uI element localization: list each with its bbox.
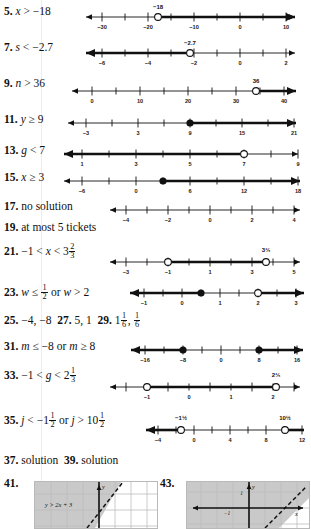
svg-text:0: 0 — [219, 357, 222, 363]
numberline-5: −18 −30 −20 −10 0 10 — [78, 3, 303, 33]
svg-text:9: 9 — [188, 130, 191, 136]
numberline-13: 1 3 5 7 9 — [58, 142, 306, 170]
item-31-label: 31. m ≤ −8 or m ≥ 8 — [4, 341, 95, 353]
svg-text:1: 1 — [218, 300, 221, 306]
svg-text:5: 5 — [188, 161, 191, 167]
svg-text:−1½: −1½ — [175, 415, 187, 421]
svg-text:3: 3 — [294, 300, 297, 306]
svg-text:4: 4 — [292, 217, 296, 223]
svg-text:1: 1 — [80, 161, 83, 167]
numberline-15: −6 0 6 12 18 — [58, 169, 306, 197]
svg-text:12: 12 — [299, 437, 305, 443]
numberline-31: −16 −8 0 8 16 — [125, 338, 307, 366]
svg-text:2⅓: 2⅓ — [272, 372, 280, 378]
svg-text:−1: −1 — [141, 300, 147, 306]
svg-text:0: 0 — [192, 437, 195, 443]
svg-text:2: 2 — [256, 300, 259, 306]
svg-text:−6: −6 — [99, 60, 105, 66]
svg-text:12: 12 — [241, 188, 247, 194]
numberline-7: −2.7 −6 −4 −2 0 2 — [78, 39, 303, 69]
svg-text:−1: −1 — [165, 269, 171, 275]
svg-text:8: 8 — [264, 437, 267, 443]
svg-text:21: 21 — [291, 130, 297, 136]
svg-text:−2.7: −2.7 — [184, 40, 197, 46]
svg-text:−3: −3 — [123, 269, 129, 275]
item-5-label: 5. x > −18 — [4, 6, 51, 18]
svg-text:10½: 10½ — [279, 415, 291, 421]
svg-text:7: 7 — [242, 161, 245, 167]
svg-text:1: 1 — [229, 394, 232, 400]
svg-text:36: 36 — [253, 78, 260, 84]
svg-text:y > 2x + 3: y > 2x + 3 — [44, 501, 72, 508]
svg-text:−1: −1 — [144, 394, 150, 400]
svg-text:5: 5 — [292, 269, 295, 275]
graph-41: y y > 2x + 3 — [34, 481, 158, 529]
item-21-label: 21. −1 < x < 323 — [4, 243, 76, 261]
svg-text:−20: −20 — [143, 24, 153, 30]
svg-text:10: 10 — [137, 98, 143, 104]
svg-text:0: 0 — [238, 24, 241, 30]
item-41-label: 41. — [4, 477, 18, 489]
item-19-label: 19. at most 5 tickets — [4, 222, 96, 234]
svg-text:x: x — [294, 510, 298, 517]
svg-text:1: 1 — [240, 490, 243, 496]
item-17-label: 17. no solution — [4, 201, 73, 213]
svg-text:−10: −10 — [189, 24, 199, 30]
svg-text:3⅔: 3⅔ — [262, 247, 270, 253]
svg-text:−6: −6 — [79, 188, 85, 194]
svg-text:−4: −4 — [155, 437, 162, 443]
svg-text:−4: −4 — [123, 217, 130, 223]
item-35-label: 35. j < −112 or j > 1012 — [4, 412, 106, 430]
numberline-23: −1 0 1 2 3 — [124, 281, 308, 309]
numberline-9: 36 0 10 20 30 40 — [64, 75, 304, 105]
item-43-label: 43. — [160, 477, 174, 489]
svg-text:0: 0 — [180, 300, 183, 306]
svg-text:4: 4 — [228, 437, 232, 443]
svg-text:10: 10 — [283, 24, 289, 30]
numberline-33: 2⅓ −1 0 1 2 — [104, 368, 306, 402]
item-11-label: 11. y ≥ 9 — [4, 114, 44, 126]
svg-text:9: 9 — [296, 161, 299, 167]
svg-text:y: y — [251, 483, 255, 490]
svg-text:−18: −18 — [153, 4, 164, 10]
svg-text:−16: −16 — [140, 357, 150, 363]
svg-text:y: y — [101, 483, 105, 490]
item-13-label: 13. g < 7 — [4, 145, 45, 157]
svg-text:−2: −2 — [191, 60, 197, 66]
svg-text:−2: −2 — [165, 217, 171, 223]
svg-text:0: 0 — [134, 188, 137, 194]
item-9-label: 9. n > 36 — [4, 78, 45, 90]
svg-text:−1: −1 — [224, 510, 231, 516]
svg-text:0: 0 — [90, 98, 93, 104]
item-33-label: 33. −1 < g < 213 — [4, 367, 77, 385]
item-25-27-29-label: 25. −4, −8 27. 5, 1 29. 116, 16 — [4, 312, 141, 330]
svg-text:16: 16 — [294, 357, 300, 363]
numberline-21: 3⅔ −3 −1 1 3 5 — [104, 243, 306, 277]
svg-text:0: 0 — [238, 60, 241, 66]
graph-43: y x 1 −1 — [186, 481, 310, 529]
svg-text:3: 3 — [250, 269, 253, 275]
svg-text:2: 2 — [250, 217, 253, 223]
svg-text:−4: −4 — [145, 60, 152, 66]
item-23-label: 23. w ≤ 12 or w > 2 — [4, 284, 89, 302]
svg-text:20: 20 — [185, 98, 191, 104]
svg-text:15: 15 — [239, 130, 245, 136]
svg-text:0: 0 — [187, 394, 190, 400]
item-37-39-label: 37. solution 39. solution — [4, 455, 118, 467]
svg-text:1: 1 — [208, 269, 211, 275]
svg-text:−30: −30 — [97, 24, 107, 30]
svg-text:3: 3 — [134, 161, 137, 167]
svg-text:8: 8 — [257, 357, 260, 363]
item-7-label: 7. s < −2.7 — [4, 42, 53, 54]
svg-text:−3: −3 — [83, 130, 89, 136]
svg-text:0: 0 — [208, 217, 211, 223]
svg-text:−8: −8 — [180, 357, 186, 363]
svg-text:3: 3 — [136, 130, 139, 136]
svg-text:40: 40 — [281, 98, 287, 104]
svg-text:6: 6 — [188, 188, 191, 194]
numberline-35: −1½ 10½ −4 0 4 8 12 — [140, 410, 308, 444]
item-15-label: 15. x ≥ 3 — [4, 172, 44, 184]
numberline-17: −4 −2 0 2 4 — [104, 198, 306, 226]
numberline-11: −3 3 9 15 21 — [62, 111, 304, 139]
